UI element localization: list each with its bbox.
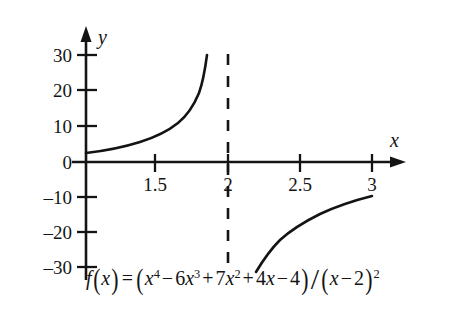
- formula-term3-exponent: 2: [234, 267, 240, 281]
- formula-numerator-open-paren: (: [136, 265, 143, 294]
- formula-term2-var: x: [185, 267, 194, 289]
- formula-op1: −: [160, 267, 175, 289]
- x-tick-label-3: 3: [342, 174, 402, 196]
- formula-term3-coef: 7: [216, 267, 226, 289]
- x-tick-label-2-5: 2.5: [270, 174, 330, 196]
- x-tick-label-1-5: 1.5: [125, 174, 185, 196]
- formula-term4-var: x: [266, 267, 275, 289]
- y-tick-label-0: 0: [16, 152, 72, 174]
- formula-term1-var: x: [145, 267, 154, 289]
- curve-right-branch: [256, 196, 372, 272]
- formula-term4-coef: 4: [256, 267, 266, 289]
- formula-op4: −: [275, 267, 290, 289]
- formula-denominator-exponent: 2: [374, 267, 380, 281]
- function-graph-figure: 30 20 10 0 –10 –20 –30 1.5 2 2.5 3 y x f…: [0, 0, 475, 316]
- y-tick-label-minus-10: –10: [6, 187, 72, 209]
- formula-division-slash: /: [310, 264, 320, 294]
- y-axis-label: y: [98, 26, 107, 49]
- formula-f: f: [86, 267, 92, 289]
- y-tick-label-30: 30: [16, 45, 72, 67]
- curve-left-branch: [86, 55, 207, 153]
- formula-equals: =: [120, 267, 135, 289]
- formula-term5-const: 4: [290, 267, 300, 289]
- x-tick-label-2: 2: [198, 174, 258, 196]
- formula-op3: +: [241, 267, 256, 289]
- formula-denominator-op: −: [339, 267, 354, 289]
- y-tick-label-minus-20: –20: [6, 222, 72, 244]
- formula-lhs-close-paren: ): [111, 265, 118, 294]
- formula-denominator-const: 2: [354, 267, 364, 289]
- formula-term1-exponent: 4: [154, 267, 160, 281]
- x-axis-label: x: [390, 129, 399, 152]
- formula-denominator-open-paren: (: [321, 265, 328, 294]
- y-tick-label-10: 10: [16, 116, 72, 138]
- formula-numerator-close-paren: ): [301, 265, 308, 294]
- y-tick-label-minus-30: –30: [6, 257, 72, 279]
- formula-lhs-var: x: [101, 267, 110, 289]
- formula-denominator-var: x: [330, 267, 339, 289]
- equation-caption: f(x)=(x4−6x3+7x2+4x−4)/(x−2)2: [86, 264, 472, 304]
- y-tick-label-20: 20: [16, 80, 72, 102]
- formula-lhs-open-paren: (: [93, 265, 100, 294]
- x-axis: [72, 157, 406, 168]
- formula-denominator-close-paren: ): [365, 265, 372, 294]
- formula-term2-coef: 6: [175, 267, 185, 289]
- formula-op2: +: [200, 267, 215, 289]
